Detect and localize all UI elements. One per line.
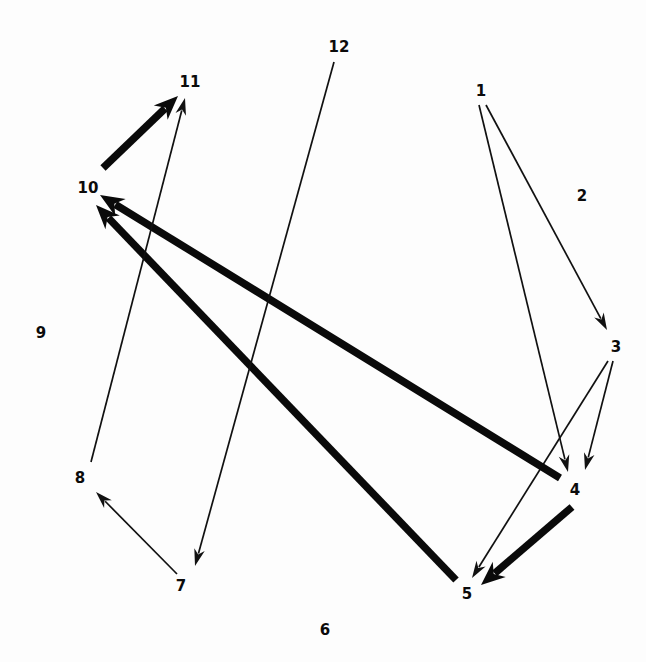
edge-4-to-10 bbox=[100, 195, 560, 478]
graph-canvas: 123456789101112 bbox=[0, 0, 646, 662]
node-label-1[interactable]: 1 bbox=[476, 84, 486, 99]
edge-line bbox=[588, 361, 613, 457]
edge-7-to-8 bbox=[96, 492, 177, 574]
node-label-2[interactable]: 2 bbox=[577, 189, 587, 204]
node-label-10[interactable]: 10 bbox=[78, 181, 99, 196]
node-label-11[interactable]: 11 bbox=[180, 75, 201, 90]
node-label-7[interactable]: 7 bbox=[176, 579, 186, 594]
edge-line bbox=[479, 105, 565, 459]
edge-5-to-10 bbox=[96, 205, 456, 580]
arrowhead-icon bbox=[594, 312, 607, 330]
edge-line bbox=[495, 507, 572, 573]
edge-line bbox=[115, 204, 560, 478]
edge-1-to-3 bbox=[486, 105, 607, 330]
node-label-6[interactable]: 6 bbox=[320, 623, 330, 638]
edge-line bbox=[198, 62, 334, 553]
edge-layer bbox=[0, 0, 646, 662]
arrowhead-icon bbox=[472, 561, 486, 578]
edge-line bbox=[486, 105, 601, 319]
node-label-3[interactable]: 3 bbox=[611, 340, 621, 355]
edge-1-to-4 bbox=[479, 105, 569, 472]
node-label-9[interactable]: 9 bbox=[36, 326, 46, 341]
node-label-4[interactable]: 4 bbox=[570, 483, 580, 498]
node-label-5[interactable]: 5 bbox=[462, 587, 472, 602]
node-label-12[interactable]: 12 bbox=[329, 40, 350, 55]
edge-line bbox=[108, 218, 456, 580]
node-label-8[interactable]: 8 bbox=[75, 471, 85, 486]
edge-4-to-5 bbox=[481, 507, 572, 585]
edge-12-to-7 bbox=[194, 62, 334, 566]
edge-line bbox=[103, 108, 165, 168]
edge-10-to-11 bbox=[103, 96, 178, 168]
edge-line bbox=[105, 501, 177, 574]
